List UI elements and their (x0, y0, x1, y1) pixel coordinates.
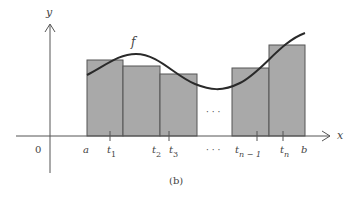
riemann-rectangles (87, 45, 305, 136)
tick-label-tn-1: tn − 1 (235, 144, 261, 159)
tick-label-tn: tn (280, 144, 289, 159)
interval-end-label: b (301, 144, 307, 155)
tick-label-t1: t1 (107, 144, 116, 159)
y-axis-label: y (45, 6, 53, 19)
origin-label: 0 (35, 144, 41, 155)
rectangle-n (269, 45, 305, 136)
interval-start-label: a (83, 144, 89, 155)
function-label: f (130, 35, 138, 49)
rectangle-2 (123, 66, 160, 136)
rectangle-n-1 (232, 68, 269, 136)
figure-caption: (b) (169, 175, 183, 186)
ellipsis-axis: · · · (206, 145, 220, 155)
tick-label-t3: t3 (169, 144, 178, 159)
ellipsis-inside: · · · (206, 107, 220, 117)
x-axis-label: x (337, 129, 344, 142)
tick-label-t2: t2 (152, 144, 161, 159)
riemann-sum-diagram: y x f 0 a b t1 t2 t3 tn − 1 tn · · · · ·… (0, 0, 357, 198)
y-axis (45, 24, 55, 173)
